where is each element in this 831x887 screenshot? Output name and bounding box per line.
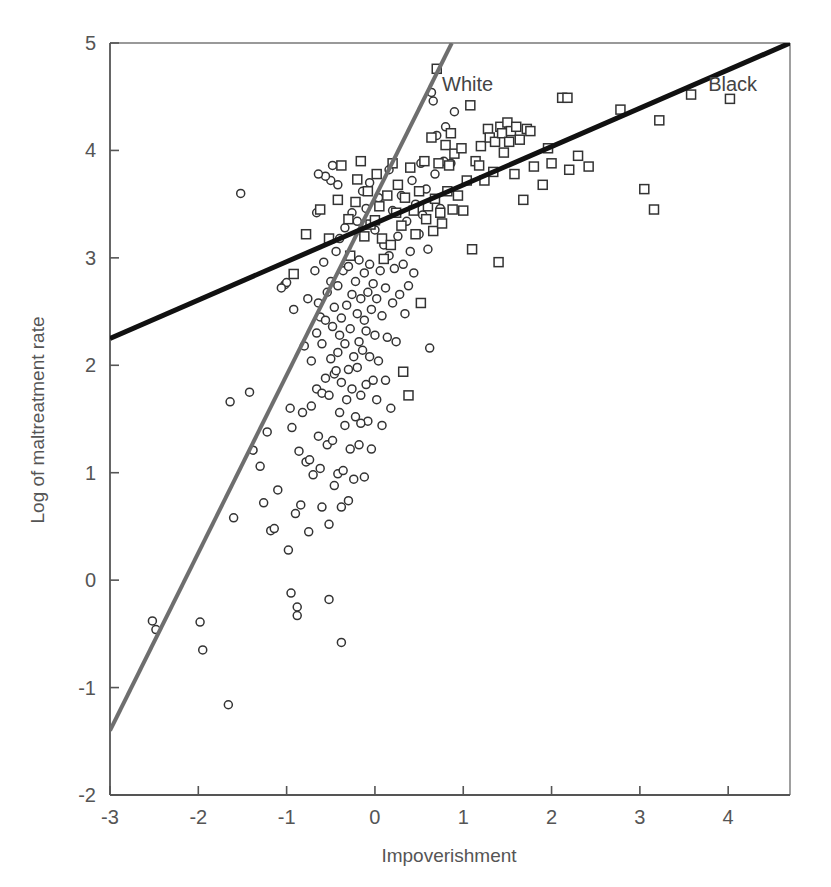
data-point-white: [408, 177, 416, 185]
data-point-black: [563, 93, 572, 102]
data-point-black: [475, 161, 484, 170]
data-point-black: [498, 129, 507, 138]
data-point-white: [224, 701, 232, 709]
data-point-black: [406, 163, 415, 172]
data-point-black: [399, 367, 408, 376]
data-point-white: [357, 295, 365, 303]
data-point-white: [337, 638, 345, 646]
data-point-white: [309, 471, 317, 479]
data-point-black: [344, 215, 353, 224]
data-point-black: [434, 159, 443, 168]
data-point-white: [336, 409, 344, 417]
data-point-white: [291, 510, 299, 518]
data-point-white: [270, 525, 278, 533]
data-point-black: [386, 240, 395, 249]
data-point-white: [329, 161, 337, 169]
data-point-white: [350, 353, 358, 361]
data-point-black: [640, 185, 649, 194]
y-axis-label: Log of maltreatment rate: [27, 317, 48, 524]
data-point-white: [329, 436, 337, 444]
data-point-white: [353, 363, 361, 371]
data-point-white: [396, 290, 404, 298]
data-point-black: [483, 124, 492, 133]
data-point-black: [494, 258, 503, 267]
series-label-black: Black: [708, 73, 758, 95]
data-point-white: [450, 108, 458, 116]
data-point-white: [330, 482, 338, 490]
data-point-white: [313, 329, 321, 337]
data-point-black: [515, 135, 524, 144]
y-tick-label: 2: [85, 354, 96, 376]
data-point-white: [352, 277, 360, 285]
data-point-white: [320, 258, 328, 266]
data-point-black: [584, 162, 593, 171]
data-point-white: [360, 473, 368, 481]
data-point-white: [378, 312, 386, 320]
data-point-black: [438, 219, 447, 228]
scatter-plot-figure: -3-2-101234 -2-1012345 WhiteBlack Impove…: [0, 0, 831, 887]
data-point-black: [393, 180, 402, 189]
y-tick-label: 0: [85, 569, 96, 591]
data-point-black: [356, 157, 365, 166]
data-point-white: [369, 376, 377, 384]
data-point-white: [327, 355, 335, 363]
y-tick-label: 4: [85, 139, 96, 161]
data-point-white: [344, 262, 352, 270]
data-point-white: [260, 499, 268, 507]
data-point-black: [404, 391, 413, 400]
data-point-white: [343, 396, 351, 404]
data-point-black: [519, 195, 528, 204]
data-point-black: [650, 205, 659, 214]
data-point-black: [526, 127, 535, 136]
data-point-white: [374, 357, 382, 365]
data-point-black: [476, 142, 485, 151]
data-point-white: [256, 462, 264, 470]
data-point-black: [459, 206, 468, 215]
data-point-black: [499, 148, 508, 157]
data-point-black: [453, 191, 462, 200]
data-point-white: [376, 267, 384, 275]
data-point-white: [311, 267, 319, 275]
data-point-white: [406, 247, 414, 255]
data-point-white: [355, 256, 363, 264]
data-point-black: [316, 205, 325, 214]
data-point-black: [466, 101, 475, 110]
data-point-white: [360, 269, 368, 277]
data-point-white: [318, 503, 326, 511]
data-point-black: [420, 157, 429, 166]
data-point-white: [367, 305, 375, 313]
data-point-white: [314, 170, 322, 178]
x-tick-label: 1: [458, 806, 469, 828]
data-point-black: [397, 221, 406, 230]
data-point-black: [725, 94, 734, 103]
x-tick-label: 4: [723, 806, 734, 828]
data-point-white: [321, 316, 329, 324]
data-point-white: [355, 338, 363, 346]
data-point-white: [199, 646, 207, 654]
data-point-white: [226, 398, 234, 406]
data-point-white: [297, 501, 305, 509]
data-point-white: [373, 396, 381, 404]
data-point-white: [390, 265, 398, 273]
data-point-white: [316, 464, 324, 472]
data-point-black: [565, 165, 574, 174]
data-point-white: [332, 247, 340, 255]
data-point-black: [378, 234, 387, 243]
data-point-white: [389, 299, 397, 307]
data-point-white: [284, 546, 292, 554]
data-point-black: [302, 230, 311, 239]
data-point-white: [295, 447, 303, 455]
data-point-white: [341, 340, 349, 348]
data-point-black: [411, 230, 420, 239]
data-point-black: [429, 227, 438, 236]
data-point-white: [305, 528, 313, 536]
data-point-black: [353, 175, 362, 184]
x-tick-label: 2: [546, 806, 557, 828]
plot-canvas: -3-2-101234 -2-1012345 WhiteBlack Impove…: [0, 0, 831, 887]
data-point-white: [341, 224, 349, 232]
data-point-white: [369, 280, 377, 288]
data-point-black: [415, 187, 424, 196]
data-point-white: [330, 303, 338, 311]
data-point-black: [337, 161, 346, 170]
data-point-white: [359, 346, 367, 354]
